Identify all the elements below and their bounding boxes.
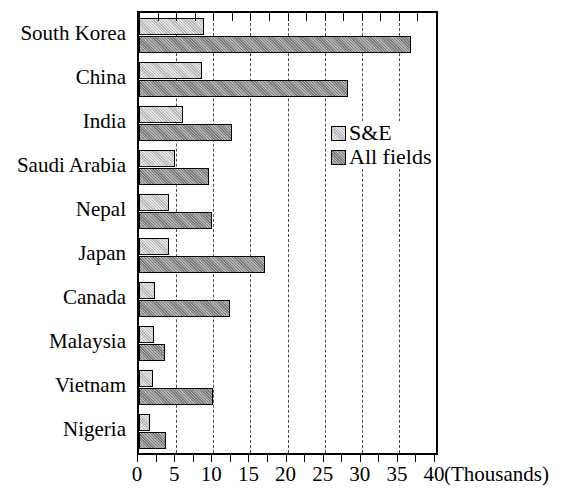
bar [139, 370, 153, 387]
axis-tick [360, 455, 361, 462]
axis-tick [417, 13, 418, 21]
bars-layer [139, 13, 436, 453]
x-tick-label: 25 [312, 462, 333, 486]
axis-tick [174, 455, 175, 462]
legend-label-all-fields: All fields [349, 145, 432, 169]
axis-tick [269, 13, 270, 21]
bar [139, 36, 411, 53]
bar [139, 432, 166, 449]
x-tick-label: 30 [349, 462, 370, 486]
bar [139, 238, 169, 255]
bar [139, 414, 150, 431]
axis-tick [323, 455, 324, 462]
x-tick-label: 15 [238, 462, 259, 486]
bar [139, 124, 232, 141]
plot-area [137, 11, 438, 455]
axis-tick [137, 455, 138, 462]
axis-tick [304, 455, 305, 462]
x-tick-label: 0 [132, 462, 143, 486]
axis-tick [399, 13, 400, 21]
category-label: South Korea [0, 22, 126, 44]
category-label: China [0, 66, 126, 88]
axis-tick [195, 13, 196, 21]
category-label: Nepal [0, 198, 126, 220]
category-label: Saudi Arabia [0, 154, 126, 176]
axis-tick [436, 13, 437, 21]
legend-item-all-fields: All fields [331, 145, 432, 169]
legend-swatch-all-fields-icon [331, 150, 346, 165]
axis-tick [341, 455, 342, 462]
bar [139, 388, 213, 405]
category-label: Japan [0, 242, 126, 264]
axis-tick [434, 455, 435, 462]
axis-tick [286, 455, 287, 462]
axis-tick [380, 13, 381, 21]
bar [139, 300, 230, 317]
axis-tick [156, 455, 157, 462]
category-label: Canada [0, 286, 126, 308]
axis-tick [158, 13, 159, 21]
x-tick-label: 35 [386, 462, 407, 486]
axis-tick [248, 455, 249, 462]
legend-label-se: S&E [349, 121, 392, 145]
x-tick-label: 20 [275, 462, 296, 486]
legend-item-se: S&E [331, 121, 432, 145]
x-tick-label: 10 [201, 462, 222, 486]
bar-chart: South KoreaChinaIndiaSaudi ArabiaNepalJa… [0, 0, 571, 491]
axis-tick [397, 455, 398, 462]
axis-tick [230, 455, 231, 462]
axis-tick [193, 455, 194, 462]
axis-tick [362, 13, 363, 21]
axis-tick [267, 455, 268, 462]
bar [139, 326, 154, 343]
axis-tick [415, 455, 416, 462]
bar [139, 344, 165, 361]
x-axis-units-label: (Thousands) [444, 462, 549, 486]
bar [139, 256, 265, 273]
bar [139, 106, 183, 123]
bar [139, 282, 155, 299]
axis-tick [288, 13, 289, 21]
axis-tick [139, 13, 140, 21]
category-label: Nigeria [0, 418, 126, 440]
legend-swatch-se-icon [331, 126, 346, 141]
bar [139, 212, 212, 229]
chart-legend: S&E All fields [331, 121, 432, 169]
x-tick-label: 40 [424, 462, 445, 486]
axis-tick [176, 13, 177, 21]
axis-tick [343, 13, 344, 21]
axis-tick [250, 13, 251, 21]
axis-tick [211, 455, 212, 462]
bar [139, 80, 348, 97]
bar [139, 62, 202, 79]
category-label: Malaysia [0, 330, 126, 352]
bar [139, 168, 209, 185]
category-label: India [0, 110, 126, 132]
bar [139, 150, 175, 167]
x-tick-label: 5 [169, 462, 180, 486]
axis-tick [378, 455, 379, 462]
axis-tick [325, 13, 326, 21]
bar [139, 194, 169, 211]
axis-tick [232, 13, 233, 21]
axis-tick [213, 13, 214, 21]
category-axis: South KoreaChinaIndiaSaudi ArabiaNepalJa… [0, 11, 130, 451]
category-label: Vietnam [0, 374, 126, 396]
x-axis-tick-labels: 0510152025303540 [137, 462, 434, 490]
axis-tick [306, 13, 307, 21]
